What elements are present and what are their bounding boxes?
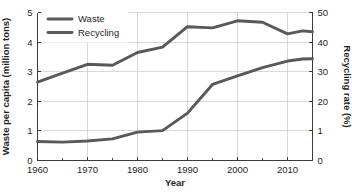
y2-tick-label: 20 <box>318 96 329 107</box>
y-tick-label: 4 <box>27 37 32 48</box>
legend-label: Waste <box>78 13 105 24</box>
legend-label: Recycling <box>78 27 119 38</box>
series-line-recycling <box>38 59 313 142</box>
y2-tick-labels: 0120304050 <box>318 7 329 166</box>
y-tick-label: 2 <box>27 96 32 107</box>
y2-tick-label: 30 <box>318 66 329 77</box>
y-axis-title: Waste per capita (million tons) <box>0 18 11 155</box>
y2-tick-label: 0 <box>318 155 323 166</box>
x-axis-title: Year <box>165 177 185 188</box>
x-tick-label: 2010 <box>277 164 298 175</box>
x-tick-label: 1980 <box>127 164 148 175</box>
x-tick-label: 2000 <box>227 164 248 175</box>
x-tick-label: 1970 <box>77 164 98 175</box>
y-tick-label: 3 <box>27 66 32 77</box>
y2-tick-label: 1 <box>318 125 323 136</box>
y-tick-labels: 012345 <box>27 7 32 166</box>
y2-tick-label: 40 <box>318 37 329 48</box>
y-tick-label: 5 <box>27 7 32 18</box>
x-tick-label: 1990 <box>177 164 198 175</box>
y-tick-label: 1 <box>27 125 32 136</box>
chart-legend: WasteRecycling <box>42 11 128 43</box>
y2-tick-label: 50 <box>318 7 329 18</box>
line-chart: 196019701980199020002010 012345 01203040… <box>0 0 352 192</box>
y2-axis-title: Recycling rate (%) <box>342 45 352 127</box>
x-tick-labels: 196019701980199020002010 <box>27 164 298 175</box>
chart-container: 196019701980199020002010 012345 01203040… <box>0 0 352 192</box>
y-tick-label: 0 <box>27 155 32 166</box>
